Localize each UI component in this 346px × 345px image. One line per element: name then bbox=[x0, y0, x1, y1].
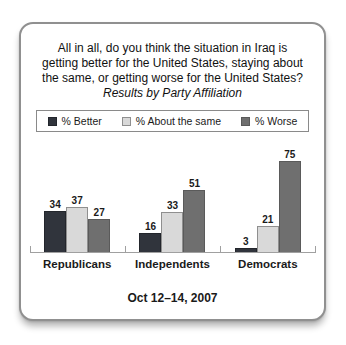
date-label: Oct 12–14, 2007 bbox=[21, 291, 324, 305]
bar-better bbox=[44, 211, 66, 253]
category-axis: RepublicansIndependentsDemocrats bbox=[30, 258, 316, 270]
legend-item-1: % Better bbox=[48, 115, 102, 127]
legend-label: % Worse bbox=[255, 115, 297, 127]
page-background: All in all, do you think the situation i… bbox=[0, 0, 346, 345]
chart-subtitle: Results by Party Affiliation bbox=[21, 86, 324, 101]
chart-title: All in all, do you think the situation i… bbox=[21, 41, 324, 86]
bar-worse bbox=[88, 219, 110, 252]
legend-swatch-icon bbox=[241, 117, 250, 126]
bar-better bbox=[139, 233, 161, 253]
chart-legend: % Better% About the same% Worse bbox=[36, 110, 310, 132]
bar-value-label: 34 bbox=[50, 199, 61, 210]
legend-label: % About the same bbox=[136, 115, 221, 127]
bar-value-label: 37 bbox=[72, 195, 83, 206]
axis-tick bbox=[220, 246, 221, 252]
bar-column: 33 bbox=[161, 200, 183, 252]
bar-better bbox=[235, 248, 257, 252]
poll-chart-card: All in all, do you think the situation i… bbox=[19, 22, 326, 321]
bar-value-label: 75 bbox=[284, 149, 295, 160]
chart-title-line: getting better for the United States, st… bbox=[21, 56, 324, 71]
bar-about-the-same bbox=[66, 207, 88, 252]
legend-swatch-icon bbox=[122, 117, 131, 126]
bar-about-the-same bbox=[257, 226, 279, 252]
legend-item-3: % Worse bbox=[241, 115, 297, 127]
bar-column: 16 bbox=[139, 221, 161, 253]
category-label-republicans: Republicans bbox=[30, 258, 125, 270]
bar-column: 37 bbox=[66, 195, 88, 252]
bar-column: 75 bbox=[279, 149, 301, 253]
bar-value-label: 51 bbox=[189, 178, 200, 189]
bar-value-label: 27 bbox=[94, 207, 105, 218]
axis-tick bbox=[30, 246, 31, 252]
bar-group-independents: 163351 bbox=[125, 132, 220, 252]
bar-worse bbox=[279, 161, 301, 253]
legend-item-2: % About the same bbox=[122, 115, 221, 127]
bar-value-label: 21 bbox=[262, 214, 273, 225]
bar-column: 21 bbox=[257, 214, 279, 252]
bar-value-label: 16 bbox=[145, 221, 156, 232]
chart-title-line: All in all, do you think the situation i… bbox=[21, 41, 324, 56]
bar-worse bbox=[183, 190, 205, 252]
bar-about-the-same bbox=[161, 212, 183, 252]
bar-column: 27 bbox=[88, 207, 110, 252]
category-label-democrats: Democrats bbox=[220, 258, 315, 270]
bar-group-democrats: 32175 bbox=[220, 132, 315, 252]
chart-title-line: the same, or getting worse for the Unite… bbox=[21, 71, 324, 86]
bar-chart-plot: 34372716335132175 bbox=[30, 132, 316, 253]
category-label-independents: Independents bbox=[125, 258, 220, 270]
bar-column: 51 bbox=[183, 178, 205, 252]
bar-column: 3 bbox=[235, 236, 257, 252]
bar-value-label: 3 bbox=[243, 236, 249, 247]
axis-tick bbox=[125, 246, 126, 252]
bar-value-label: 33 bbox=[167, 200, 178, 211]
bar-group-republicans: 343727 bbox=[30, 132, 125, 252]
axis-tick bbox=[315, 246, 316, 252]
legend-swatch-icon bbox=[48, 117, 57, 126]
bar-column: 34 bbox=[44, 199, 66, 253]
legend-label: % Better bbox=[62, 115, 102, 127]
